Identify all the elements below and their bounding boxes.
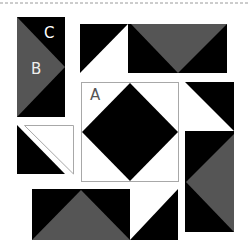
label-b: B	[31, 60, 41, 78]
right-unit	[185, 82, 234, 232]
bottom-unit	[32, 189, 178, 240]
quilt-diagram: C B A	[0, 0, 248, 251]
left-hst-pieces	[17, 125, 74, 174]
center-square-in-square: A	[82, 83, 179, 182]
left-flying-geese-unit: C B	[17, 17, 65, 117]
label-c: C	[44, 24, 54, 42]
label-a: A	[90, 86, 101, 104]
top-unit	[80, 24, 227, 73]
